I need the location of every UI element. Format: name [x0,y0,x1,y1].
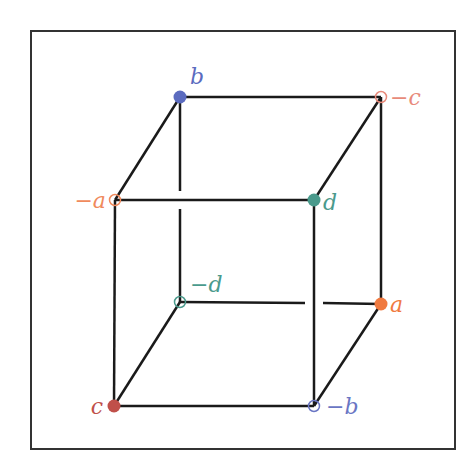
edge-neg-c-d [314,97,381,200]
edge-b-neg-a [115,97,180,200]
edge-a-neg-b [314,304,381,406]
edge-neg-a-c [114,200,115,406]
vertex-c-label: c [91,394,103,419]
vertex-neg-a-label: −a [74,188,106,213]
hidden-edge-neg-d-a-a [180,302,305,303]
vertex-a-label: a [390,292,403,317]
cube-diagram: b−c−ad−dac−b [0,0,476,472]
cube-edges [114,97,381,406]
hidden-edge-neg-d-a-b [323,303,381,304]
vertex-neg-c-label: −c [390,85,421,110]
edge-neg-d-c [114,302,180,406]
vertex-neg-d-label: −d [190,272,223,297]
vertex-c-marker [108,400,121,413]
cube-canvas: b−c−ad−dac−b [0,0,476,472]
vertex-neg-b-label: −b [326,394,359,419]
vertex-d-marker [308,194,321,207]
cube-vertices [108,91,388,413]
vertex-a-marker [375,298,388,311]
vertex-b-marker [174,91,187,104]
vertex-d-label: d [323,190,337,215]
vertex-b-label: b [190,64,204,89]
